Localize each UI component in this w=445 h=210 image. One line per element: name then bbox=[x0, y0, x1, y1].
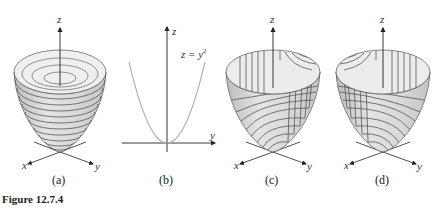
panel-label: (d) bbox=[375, 173, 389, 187]
z-axis-label: z bbox=[171, 25, 177, 37]
panel-label: (a) bbox=[52, 173, 65, 187]
z-axis-label: z bbox=[56, 13, 62, 25]
panel-a: z x y (a) bbox=[14, 13, 106, 187]
panel-label: (c) bbox=[265, 173, 278, 187]
panel-d: z x y (d) bbox=[336, 13, 430, 187]
curve-label: z = y2 bbox=[180, 47, 207, 60]
figure-caption: Figure 12.7.4 bbox=[2, 193, 63, 205]
x-axis-label: x bbox=[343, 159, 349, 171]
y-axis-label: y bbox=[94, 160, 100, 172]
y-axis-label: y bbox=[416, 160, 422, 172]
panel-c: z x y (c) bbox=[226, 13, 320, 187]
x-axis-label: x bbox=[21, 159, 27, 171]
y-axis-label: y bbox=[209, 129, 215, 141]
panel-b: z y z = y2 (b) bbox=[122, 25, 215, 187]
y-axis-label: y bbox=[306, 160, 312, 172]
panel-label: (b) bbox=[159, 173, 173, 187]
x-axis-label: x bbox=[233, 159, 239, 171]
figure-canvas: z x y (a) z y z = y2 (b) bbox=[0, 0, 445, 210]
z-axis-label: z bbox=[269, 13, 275, 25]
z-axis-label: z bbox=[379, 13, 385, 25]
